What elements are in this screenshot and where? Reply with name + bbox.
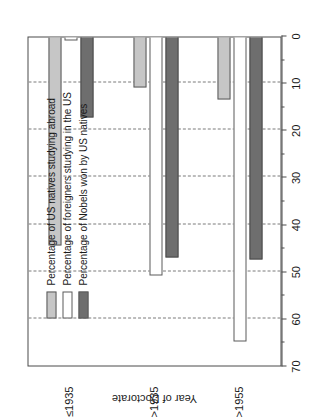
bar-1955-series0 bbox=[217, 36, 230, 99]
legend-label-0: Percentage of US natives studying abroad bbox=[45, 98, 56, 285]
value-tick-label-30: 30 bbox=[289, 171, 301, 183]
bar-1935-series0 bbox=[133, 36, 146, 87]
chart-page: 010203040506070 ≤1935>1935>1955 Year of … bbox=[0, 0, 327, 418]
value-minor-tick-55 bbox=[281, 294, 284, 295]
value-minor-tick-25 bbox=[281, 153, 284, 154]
value-tick-label-40: 40 bbox=[289, 218, 301, 230]
legend-swatch-icon-2 bbox=[78, 291, 88, 318]
value-tick-label-20: 20 bbox=[289, 124, 301, 136]
value-tick-0 bbox=[281, 35, 286, 36]
value-minor-tick-35 bbox=[281, 200, 284, 201]
bar-1935-series1 bbox=[64, 36, 77, 40]
legend-item-0: Percentage of US natives studying abroad bbox=[44, 92, 57, 318]
value-minor-tick-15 bbox=[281, 106, 284, 107]
value-minor-tick-5 bbox=[281, 59, 284, 60]
bar-1935-series2 bbox=[165, 36, 178, 257]
legend: Percentage of US natives studying abroad… bbox=[40, 86, 93, 322]
legend-swatch-icon-1 bbox=[62, 291, 72, 318]
value-tick-50 bbox=[281, 271, 286, 272]
value-tick-label-0: 0 bbox=[289, 33, 301, 39]
legend-item-1: Percentage of foreigners studying in the… bbox=[60, 92, 73, 318]
value-tick-40 bbox=[281, 224, 286, 225]
legend-label-1: Percentage of foreigners studying in the… bbox=[61, 92, 72, 285]
value-tick-label-60: 60 bbox=[289, 313, 301, 325]
rotated-figure-wrapper: 010203040506070 ≤1935>1935>1955 Year of … bbox=[0, 0, 327, 418]
legend-label-2: Percentage of Nobels won by US natives bbox=[77, 103, 88, 285]
value-tick-label-50: 50 bbox=[289, 266, 301, 278]
bar-chart-figure: 010203040506070 ≤1935>1935>1955 Year of … bbox=[0, 0, 327, 418]
value-tick-label-70: 70 bbox=[289, 360, 301, 372]
value-minor-tick-45 bbox=[281, 247, 284, 248]
value-tick-30 bbox=[281, 176, 286, 177]
value-tick-10 bbox=[281, 82, 286, 83]
legend-item-2: Percentage of Nobels won by US natives bbox=[76, 92, 89, 318]
value-minor-tick-65 bbox=[281, 341, 284, 342]
category-axis-title: Year of Doctorate bbox=[27, 392, 281, 404]
bar-1955-series1 bbox=[233, 36, 246, 341]
value-tick-label-10: 10 bbox=[289, 77, 301, 89]
value-tick-70 bbox=[281, 365, 286, 366]
value-tick-20 bbox=[281, 129, 286, 130]
legend-swatch-icon-0 bbox=[46, 291, 56, 318]
bar-1955-series2 bbox=[249, 36, 262, 259]
bar-1935-series1 bbox=[149, 36, 162, 275]
value-tick-60 bbox=[281, 318, 286, 319]
